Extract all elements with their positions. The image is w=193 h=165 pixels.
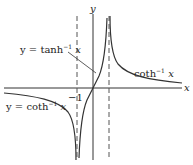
plot-svg (0, 0, 193, 165)
coth-inverse-right-label: coth−1 x (134, 68, 174, 79)
x-axis-label: x (184, 83, 190, 93)
coth-inverse-left-label: y = coth−1 x (6, 101, 66, 112)
y-axis-label: y (90, 4, 96, 14)
tick-label-neg-one: −1 (68, 93, 83, 103)
tanh-leader-line (68, 52, 96, 73)
tanh-inverse-label: y = tanh−1 x (20, 44, 81, 55)
inverse-hyperbolic-graph: y x −1 y = tanh−1 x coth−1 x y = coth−1 … (0, 0, 193, 165)
